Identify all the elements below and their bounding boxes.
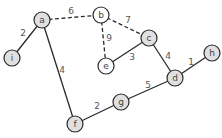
graph-diagram: 6792434152 abceihdgf (0, 0, 222, 138)
node-a: a (34, 12, 50, 28)
node-label: d (172, 73, 178, 83)
edge-weight-label: 4 (59, 65, 65, 75)
node-b: b (93, 7, 109, 23)
node-label: i (11, 53, 14, 63)
node-label: h (209, 48, 215, 58)
edge-weight-label: 3 (129, 52, 135, 62)
edge-weight-label: 1 (188, 57, 194, 67)
edge-weight-label: 5 (145, 80, 151, 90)
node-label: b (98, 10, 104, 20)
node-label: g (118, 97, 124, 107)
node-h: h (204, 45, 220, 61)
node-f: f (67, 116, 83, 132)
node-d: d (167, 70, 183, 86)
edge-weight-label: 9 (106, 33, 112, 43)
node-label: a (39, 15, 45, 25)
node-i: i (4, 50, 20, 66)
edge-weight-label: 2 (20, 28, 26, 38)
edge-weight-label: 6 (68, 6, 74, 16)
node-label: e (103, 61, 109, 71)
node-c: c (141, 30, 157, 46)
node-e: e (98, 58, 114, 74)
edge-weight-label: 4 (165, 51, 171, 61)
edge-weight-label: 2 (94, 101, 100, 111)
node-g: g (113, 94, 129, 110)
node-label: c (147, 33, 152, 43)
edge-weight-label: 7 (125, 15, 131, 25)
